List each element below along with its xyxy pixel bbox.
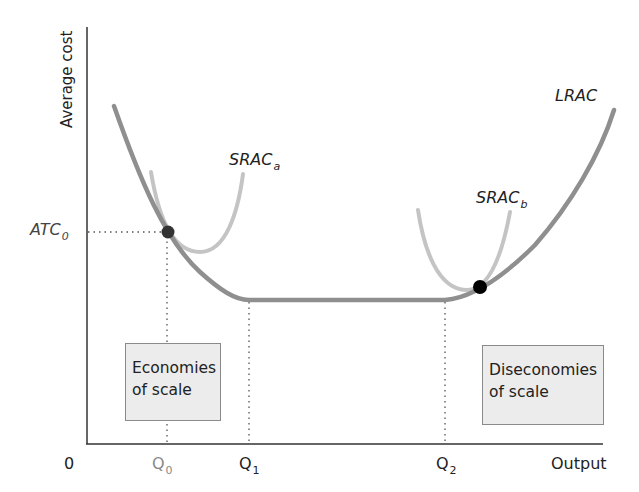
sraca-text: SRAC [229, 150, 272, 169]
diseconomies-of-scale-box: Diseconomies of scale [482, 345, 604, 425]
sraca-curve [151, 172, 243, 252]
lrac-label: LRAC [555, 86, 597, 105]
q1-text: Q [239, 454, 252, 473]
sracb-subscript: b [520, 198, 527, 211]
tangency-point-b [473, 280, 487, 294]
y-axis-title: Average cost [58, 28, 78, 138]
q2-label: Q2 [436, 454, 457, 473]
x-axis-label: Output [551, 454, 607, 473]
lrac-curve [114, 106, 614, 300]
q2-text: Q [436, 454, 449, 473]
q1-label: Q1 [239, 454, 260, 473]
sracb-text: SRAC [476, 188, 519, 207]
q2-subscript: 2 [450, 464, 457, 477]
sraca-label: SRACa [229, 150, 280, 169]
sracb-label: SRACb [476, 188, 527, 207]
q0-label: Q0 [152, 454, 173, 473]
q0-subscript: 0 [166, 464, 173, 477]
q1-subscript: 1 [253, 464, 260, 477]
diseconomies-line2: of scale [489, 381, 603, 403]
economies-line2: of scale [132, 379, 220, 401]
atc0-label: ATC0 [30, 220, 69, 239]
tangency-point-a [162, 226, 175, 239]
origin-label: 0 [64, 454, 74, 473]
diseconomies-line1: Diseconomies [489, 359, 603, 381]
economies-line1: Economies [132, 357, 220, 379]
sraca-subscript: a [273, 160, 280, 173]
y-axis-label: Average cost [58, 31, 76, 129]
economies-of-scale-box: Economies of scale [125, 343, 221, 421]
q0-text: Q [152, 454, 165, 473]
atc-text: ATC [30, 220, 61, 239]
atc-subscript: 0 [62, 230, 69, 243]
